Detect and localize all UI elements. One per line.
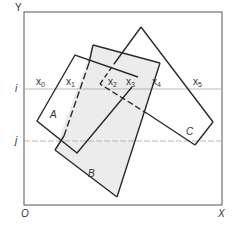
polygon-label-b: B [88,169,95,179]
axis-label-y: Y [15,3,22,13]
axis-label-x: X [218,209,225,219]
intersection-label-x3: x3 [126,77,135,88]
intersection-label-x5: x5 [193,77,202,88]
polygon-scanline-diagram [0,0,235,229]
scanline-label-j: j [15,136,17,146]
scanline-label-i: i [15,84,17,94]
polygon-label-c: C [186,127,193,137]
intersection-label-x4: x4 [152,77,161,88]
polygon-label-a: A [50,110,57,120]
axis-label-origin: O [21,209,29,219]
polygon-b-fill [55,45,160,197]
intersection-label-x0: x0 [36,77,45,88]
intersection-label-x1: x1 [66,77,75,88]
intersection-label-x2: x2 [108,77,117,88]
